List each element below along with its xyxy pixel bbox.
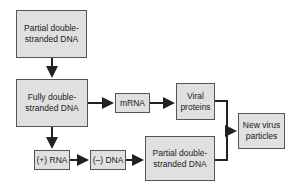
node-mrna: mRNA	[115, 93, 150, 113]
node-partial-ds-dna-bottom: Partial double-stranded DNA	[145, 136, 215, 181]
node-minus-dna: (–) DNA	[90, 150, 126, 170]
node-label: (+) RNA	[37, 155, 68, 166]
node-label: Viral proteins	[177, 91, 214, 113]
node-new-virus-particles: New virus particles	[238, 113, 285, 149]
node-label: Partial double-stranded DNA	[146, 148, 214, 170]
node-fully-ds-dna: Fully double-stranded DNA	[16, 79, 88, 127]
node-label: New virus particles	[239, 120, 284, 142]
node-label: (–) DNA	[93, 155, 124, 166]
node-viral-proteins: Viral proteins	[176, 83, 215, 120]
node-plus-rna: (+) RNA	[34, 150, 70, 170]
node-label: Partial double-stranded DNA	[17, 23, 86, 45]
node-label: mRNA	[120, 98, 145, 109]
node-partial-ds-dna-top: Partial double-stranded DNA	[16, 10, 87, 58]
node-label: Fully double-stranded DNA	[17, 92, 87, 114]
